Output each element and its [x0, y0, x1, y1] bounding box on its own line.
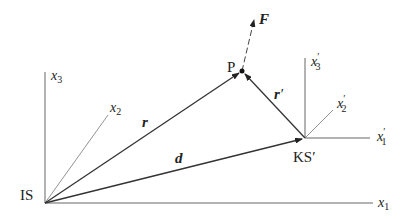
vector-r: [45, 73, 239, 203]
vector-r-prime: [245, 74, 305, 138]
ks-x3-label: x′3: [310, 51, 320, 72]
point-P: [240, 69, 245, 74]
point-P-label: P: [227, 59, 235, 75]
is-x1-label: x1: [377, 195, 389, 212]
ks-x2-axis: [305, 110, 333, 138]
is-label: IS: [20, 187, 33, 203]
coordinate-frames-diagram: IS KS′ P r d r′ F x3 x2 x1 x′3 x′2 x′1: [0, 0, 409, 219]
vector-r-prime-label: r′: [274, 86, 284, 102]
vector-F-label: F: [258, 11, 269, 27]
vector-r-label: r: [142, 114, 148, 130]
vector-d-label: d: [175, 150, 183, 166]
ks-label: KS′: [293, 149, 315, 165]
is-x3-label: x3: [50, 68, 62, 85]
is-x2-label: x2: [109, 100, 121, 117]
ks-x2-label: x′2: [336, 93, 346, 114]
ks-x1-label: x′1: [376, 126, 386, 147]
vector-F: [242, 20, 254, 71]
